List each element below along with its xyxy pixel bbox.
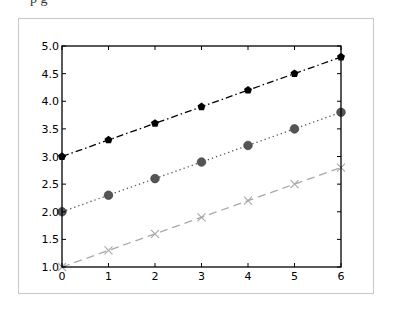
line-chart: 01234561.01.52.02.53.03.54.04.55.0 <box>0 0 393 311</box>
y-tick-label: 4.5 <box>42 68 60 81</box>
x-tick-label: 5 <box>291 270 298 283</box>
x-marker <box>198 213 206 221</box>
x-tick-label: 3 <box>198 270 205 283</box>
series-2-line <box>58 108 346 216</box>
x-tick-label: 1 <box>105 270 112 283</box>
x-marker <box>105 246 113 254</box>
pentagon-marker <box>105 136 113 144</box>
pentagon-marker <box>198 103 206 111</box>
ticks-layer <box>62 46 341 267</box>
x-tick-label: 4 <box>245 270 252 283</box>
pentagon-marker <box>151 119 159 127</box>
circle-marker <box>244 141 253 150</box>
x-marker <box>291 180 299 188</box>
circle-marker <box>151 174 160 183</box>
axes-frame <box>62 46 341 267</box>
y-tick-label: 1.5 <box>42 233 60 246</box>
pentagon-marker <box>291 69 299 77</box>
series-3-line <box>58 164 345 271</box>
y-tick-label: 5.0 <box>42 40 60 53</box>
y-tick-label: 1.0 <box>42 261 60 274</box>
y-tick-label: 3.0 <box>42 151 60 164</box>
y-tick-label: 4.0 <box>42 95 60 108</box>
series-1-line <box>58 53 345 160</box>
y-tick-label: 2.0 <box>42 206 60 219</box>
y-tick-label: 3.5 <box>42 123 60 136</box>
circle-marker <box>104 191 113 200</box>
circle-marker <box>197 158 206 167</box>
tick-labels: 01234561.01.52.02.53.03.54.04.55.0 <box>42 40 345 283</box>
x-marker <box>244 197 252 205</box>
x-tick-label: 2 <box>152 270 159 283</box>
x-tick-label: 0 <box>59 270 66 283</box>
circle-marker <box>290 125 299 134</box>
x-marker <box>151 230 159 238</box>
series-layer <box>58 53 346 271</box>
pentagon-marker <box>244 86 252 94</box>
x-tick-label: 6 <box>338 270 345 283</box>
y-tick-label: 2.5 <box>42 178 60 191</box>
